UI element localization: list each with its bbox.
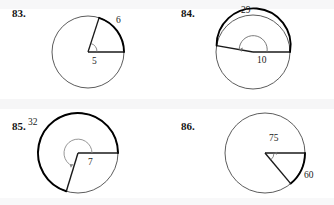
arc-length-label-85: 32 bbox=[28, 118, 38, 128]
circle-diagram-84 bbox=[167, 0, 334, 102]
problem-85-figure bbox=[0, 103, 167, 205]
radius-length-label-85: 7 bbox=[88, 158, 93, 168]
radius-length-label-83: 5 bbox=[92, 57, 97, 67]
bold-arc-86 bbox=[291, 153, 305, 184]
angle-arrowhead-85 bbox=[69, 164, 73, 168]
problem-83-figure bbox=[0, 0, 167, 102]
problem-84: 84. 29 10 bbox=[167, 0, 334, 102]
worksheet-page: 83. 6 5 84. bbox=[0, 0, 334, 205]
circle-diagram-86 bbox=[167, 103, 334, 205]
bold-arc-85 bbox=[38, 113, 118, 191]
angle-marker-83 bbox=[91, 43, 97, 52]
radius-length-label-86: 75 bbox=[269, 134, 279, 144]
angle-arrowhead-86 bbox=[274, 152, 277, 155]
circle-diagram-83 bbox=[0, 0, 167, 102]
radius-line-85-lower bbox=[66, 153, 78, 191]
arc-length-label-84: 29 bbox=[241, 6, 251, 16]
radius-line-86-lower bbox=[265, 153, 291, 184]
circle-diagram-85 bbox=[0, 103, 167, 205]
problem-86: 86. 60 75 bbox=[167, 103, 334, 205]
angle-marker-86 bbox=[271, 153, 274, 160]
problem-85: 85. 32 7 bbox=[0, 103, 167, 205]
radius-line-84-left bbox=[217, 46, 253, 52]
problem-83: 83. 6 5 bbox=[0, 0, 167, 102]
radius-length-label-84: 10 bbox=[257, 56, 267, 66]
arc-length-label-83: 6 bbox=[116, 16, 121, 26]
angle-marker-84 bbox=[239, 36, 267, 52]
problem-86-figure bbox=[167, 103, 334, 205]
problem-84-figure bbox=[167, 0, 334, 102]
radius-line-83-upper bbox=[88, 18, 99, 52]
arc-length-label-86: 60 bbox=[304, 171, 314, 181]
